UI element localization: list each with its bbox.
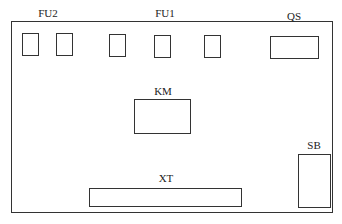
contactor-km [134, 99, 191, 134]
fuse-fu2-2 [56, 33, 73, 56]
fuse-fu1-1 [109, 34, 126, 57]
sb-label: SB [307, 139, 320, 151]
fuse-fu1-3 [204, 35, 221, 58]
fu1-label: FU1 [155, 7, 175, 19]
fuse-fu1-2 [154, 35, 171, 58]
fuse-fu2-1 [22, 33, 39, 56]
km-label: KM [154, 85, 172, 97]
button-sb [298, 154, 331, 208]
xt-label: XT [159, 172, 174, 184]
fu2-label: FU2 [38, 7, 58, 19]
switch-qs [270, 36, 319, 59]
terminal-block-xt [89, 188, 242, 207]
qs-label: QS [287, 10, 301, 22]
